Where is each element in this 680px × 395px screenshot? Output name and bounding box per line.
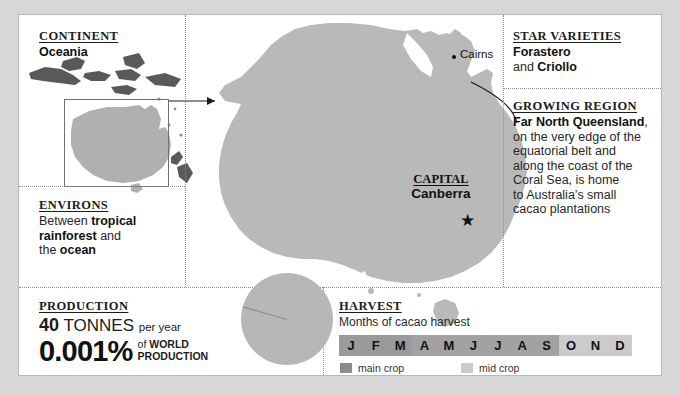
world-production-pie-chart — [241, 273, 333, 365]
production-amount: 40 — [39, 315, 59, 335]
continent-value: Oceania — [39, 45, 179, 60]
harvest-legend: main cropmid crop — [339, 362, 649, 374]
continent-header: CONTINENT — [39, 29, 179, 43]
capital-label-group: CAPITAL Canberra — [395, 172, 487, 202]
harvest-month-cell: J — [461, 335, 485, 356]
variety-forastero: Forastero — [513, 45, 571, 59]
growing-region-text: Far North Queensland, on the very edge o… — [513, 115, 662, 217]
star-varieties-header: STAR VARIETIES — [513, 29, 661, 43]
panel-star-varieties: STAR VARIETIES Forastero and Criollo — [513, 29, 661, 74]
growing-region-place: Far North Queensland — [513, 115, 644, 129]
production-header: PRODUCTION — [39, 299, 244, 313]
legend-swatch-icon — [339, 362, 353, 374]
divider-left-column — [185, 15, 186, 287]
harvest-month-cell: O — [559, 335, 583, 356]
harvest-header: HARVEST — [339, 299, 649, 313]
infographic-panel: CONTINENT Oceania ENVIRONS Between tropi… — [18, 14, 662, 376]
capital-name: Canberra — [395, 186, 487, 202]
production-per: per year — [139, 321, 181, 333]
pie-slice-australia — [243, 306, 287, 320]
environs-text: Between tropical rainforest and the ocea… — [39, 214, 179, 258]
divider-production-top — [19, 287, 662, 288]
divider-right-column — [503, 15, 504, 287]
panel-continent: CONTINENT Oceania — [39, 29, 179, 60]
harvest-month-cell: F — [363, 335, 387, 356]
harvest-month-cell: S — [534, 335, 558, 356]
harvest-month-cell: A — [510, 335, 534, 356]
legend-item: main crop — [339, 362, 404, 374]
harvest-month-cell: A — [412, 335, 436, 356]
harvest-month-cell: J — [339, 335, 363, 356]
divider-environs-top — [19, 186, 185, 187]
environs-line1: Between tropical — [39, 214, 136, 228]
variety-criollo: Criollo — [537, 60, 577, 74]
capital-header: CAPITAL — [395, 172, 487, 186]
inset-pointer-arrow — [169, 97, 215, 105]
cairns-dot-icon — [452, 55, 456, 59]
inset-highlight-box — [64, 99, 169, 187]
legend-label: mid crop — [479, 362, 519, 374]
environs-line3: the ocean — [39, 243, 96, 257]
cairns-label: Cairns — [460, 48, 493, 60]
growing-region-header: GROWING REGION — [513, 99, 662, 113]
capital-star-icon: ★ — [460, 212, 475, 229]
harvest-month-cell: M — [388, 335, 412, 356]
divider-growing-region-top — [503, 88, 662, 89]
harvest-month-cell: D — [608, 335, 632, 356]
legend-label: main crop — [358, 362, 404, 374]
production-amount-line: 40 TONNES per year — [39, 315, 244, 337]
production-percent: 0.001% — [39, 336, 133, 366]
legend-item: mid crop — [460, 362, 519, 374]
production-percent-caption: of WORLD PRODUCTION — [138, 339, 209, 366]
production-unit: TONNES — [63, 316, 134, 335]
production-percent-line: 0.001% of WORLD PRODUCTION — [39, 336, 244, 366]
harvest-month-bar: JFMAMJJASOND — [339, 335, 632, 356]
environs-header: ENVIRONS — [39, 198, 179, 212]
panel-environs: ENVIRONS Between tropical rainforest and… — [39, 198, 179, 258]
harvest-month-cell: M — [437, 335, 461, 356]
harvest-month-cell: N — [583, 335, 607, 356]
legend-swatch-icon — [460, 362, 474, 374]
panel-growing-region: GROWING REGION Far North Queensland, on … — [513, 99, 662, 217]
star-varieties-text: Forastero and Criollo — [513, 45, 661, 74]
panel-production: PRODUCTION 40 TONNES per year 0.001% of … — [39, 299, 244, 366]
environs-line2: rainforest and — [39, 229, 121, 243]
panel-harvest: HARVEST Months of cacao harvest JFMAMJJA… — [339, 299, 649, 374]
harvest-month-cell: J — [486, 335, 510, 356]
harvest-subtitle: Months of cacao harvest — [339, 315, 649, 330]
